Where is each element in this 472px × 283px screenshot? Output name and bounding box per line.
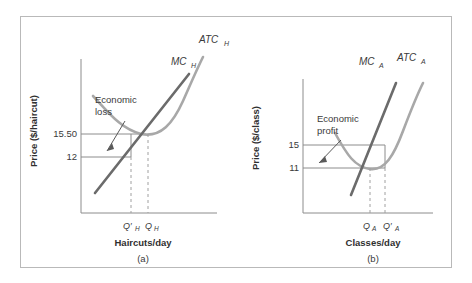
panel-a-x-tick-q-prime-sub: H: [135, 225, 140, 232]
panel-a-mc-label-sub: H: [191, 62, 197, 69]
panel-b-atc-label: ATC A: [396, 52, 426, 65]
panel-a-x-tick-q-prime-main: Q′: [123, 221, 132, 231]
panel-b-mc-curve: [351, 83, 396, 195]
panel-a-mc-label: MC H: [171, 56, 197, 69]
panel-b-atc-label-main: ATC: [396, 52, 417, 63]
panel-a-annotation-arrow: [107, 121, 125, 151]
panel-a-annotation-line2: loss: [95, 106, 112, 117]
panel-b-annotation-line1: Economic: [317, 113, 359, 124]
panel-a-x-tick-q-prime: Q′ H: [123, 221, 140, 232]
panel-a-annotation-line1: Economic: [95, 94, 137, 105]
panel-a: Price ($/haircut) 15.50 12 Economic loss: [21, 17, 237, 267]
figure-border: Price ($/haircut) 15.50 12 Economic loss: [20, 16, 452, 268]
panel-b-x-axis-label: Classes/day: [346, 237, 402, 248]
panel-b-y-tick-11: 11: [289, 162, 299, 173]
panel-b-atc-label-sub: A: [420, 58, 426, 65]
panel-b-mc-label: MC A: [359, 56, 384, 69]
panel-b-x-tick-q-prime-sub: A: [394, 225, 399, 232]
panel-a-atc-label: ATC H: [198, 34, 230, 47]
panel-b-mc-label-sub: A: [378, 62, 384, 69]
panel-a-atc-label-sub: H: [224, 40, 230, 47]
panel-a-x-tick-q: Q H: [145, 221, 159, 232]
panel-a-x-axis-label: Haircuts/day: [114, 237, 172, 248]
panel-b-annotation-arrow: [319, 140, 341, 163]
panel-b-mc-label-main: MC: [359, 56, 375, 67]
panel-b-caption: (b): [367, 253, 379, 264]
panel-b-x-tick-q-prime: Q′ A: [383, 221, 399, 232]
panel-b-y-axis-label: Price ($/class): [250, 106, 261, 170]
panel-a-mc-label-main: MC: [171, 56, 187, 67]
panel-b-x-tick-q-main: Q: [363, 221, 370, 231]
panel-a-y-tick-12: 12: [66, 151, 77, 162]
panel-b-x-tick-q: Q A: [363, 221, 376, 232]
panel-a-y-axis-label: Price ($/haircut): [28, 95, 39, 167]
panel-b: Price ($/class) 15 11 Economic profit: [237, 17, 453, 267]
panel-b-x-tick-q-sub: A: [371, 225, 376, 232]
panel-a-y-tick-15.50: 15.50: [53, 128, 77, 139]
panel-a-x-tick-q-main: Q: [145, 221, 152, 231]
panel-a-caption: (a): [137, 253, 149, 264]
panel-a-x-tick-q-sub: H: [154, 225, 159, 232]
panel-b-annotation-line2: profit: [317, 125, 338, 136]
panel-a-atc-label-main: ATC: [198, 34, 219, 45]
panel-b-x-tick-q-prime-main: Q′: [383, 221, 392, 231]
panel-b-y-tick-15: 15: [288, 139, 299, 150]
figure-root: Price ($/haircut) 15.50 12 Economic loss: [0, 0, 472, 283]
